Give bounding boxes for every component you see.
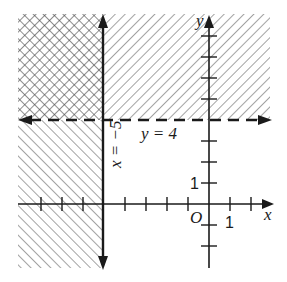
x-unit-label: 1 [225, 214, 234, 231]
inequality-graph: y x O 1 1 y = 4 x = −5 [0, 0, 287, 282]
x-axis-label: x [263, 205, 272, 224]
region-y-ge-4 [103, 14, 270, 120]
origin-label: O [190, 208, 202, 227]
region-x-le-neg5 [18, 120, 103, 268]
y-unit-label: 1 [190, 175, 199, 192]
line-y-label: y = 4 [139, 124, 178, 143]
y-axis-label: y [194, 11, 204, 30]
region-solution-overlap [18, 14, 103, 120]
line-x-label: x = −5 [106, 121, 125, 170]
